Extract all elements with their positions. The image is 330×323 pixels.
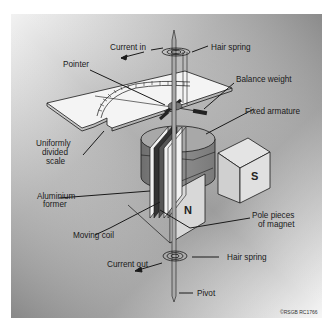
label-pole-pieces-line1: Pole pieces <box>252 211 294 220</box>
label-balance-weight: Balance weight <box>236 75 292 84</box>
label-scale-line2: divided <box>42 148 68 157</box>
moving-coil-meter-diagram: N S <box>0 0 330 323</box>
label-pointer: Pointer <box>63 60 89 69</box>
label-current-out: Current out <box>107 260 149 269</box>
north-pole-label: N <box>184 204 192 216</box>
label-fixed-armature: Fixed armature <box>245 107 301 116</box>
label-pole-pieces-line2: of magnet <box>258 220 295 229</box>
south-pole-label: S <box>251 170 258 182</box>
label-hair-spring-bottom: Hair spring <box>227 253 267 262</box>
label-aluminium-line2: former <box>43 200 67 209</box>
label-scale-line3: scale <box>46 157 66 166</box>
label-pivot: Pivot <box>197 289 216 298</box>
label-hair-spring-top: Hair spring <box>211 43 251 52</box>
label-current-in: Current in <box>110 43 146 52</box>
label-scale-line1: Uniformly <box>36 139 71 148</box>
copyright-notice: ©RSGB RC1766 <box>280 309 318 315</box>
label-moving-coil: Moving coil <box>73 231 114 240</box>
